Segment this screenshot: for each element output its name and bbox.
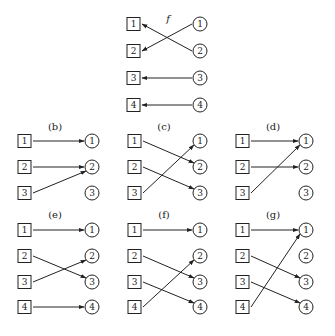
domain-node-label: 3 [240, 277, 246, 287]
mapping-arrow [33, 260, 86, 282]
domain-node-label: 4 [22, 302, 28, 312]
codomain-node-label: 4 [303, 302, 309, 312]
panel-f2: (f)12341234 [128, 209, 207, 314]
codomain-node-label: 2 [89, 251, 95, 261]
codomain-node-label: 2 [303, 162, 309, 172]
mapping-arrow [251, 234, 300, 307]
panel-d: (d)123123 [236, 121, 313, 200]
domain-node-label: 2 [22, 162, 28, 172]
codomain-node-label: 2 [89, 162, 95, 172]
domain-node-label: 1 [132, 225, 138, 235]
codomain-node-label: 3 [89, 277, 95, 287]
codomain-node-label: 3 [197, 73, 203, 83]
panel-label: (d) [266, 121, 280, 132]
codomain-node-label: 1 [197, 136, 203, 146]
mapping-arrow [33, 171, 86, 193]
domain-node-label: 1 [132, 136, 138, 146]
codomain-node-label: 1 [197, 225, 203, 235]
domain-node-label: 3 [22, 277, 28, 287]
panel-label: (e) [48, 209, 62, 220]
domain-node-label: 4 [132, 302, 138, 312]
panel-e: (e)12341234 [18, 209, 99, 314]
mapping-arrow [251, 282, 300, 303]
codomain-node-label: 4 [197, 302, 203, 312]
codomain-node-label: 3 [303, 188, 309, 198]
domain-node-label: 2 [131, 46, 137, 56]
panel-label: (c) [157, 121, 171, 132]
panel-label: (f) [158, 209, 170, 220]
domain-node-label: 1 [240, 136, 246, 146]
mapping-arrow [251, 145, 300, 193]
codomain-node-label: 4 [89, 302, 95, 312]
panel-label: (b) [48, 121, 62, 132]
panel-c: (c)123123 [128, 121, 207, 200]
domain-node-label: 1 [22, 136, 28, 146]
domain-node-label: 2 [132, 162, 138, 172]
codomain-node-label: 2 [197, 251, 203, 261]
codomain-node-label: 2 [303, 251, 309, 261]
domain-node-label: 1 [22, 225, 28, 235]
codomain-node-label: 3 [89, 188, 95, 198]
domain-node-label: 1 [240, 225, 246, 235]
domain-node-label: 3 [132, 188, 138, 198]
mapping-arrow [33, 256, 86, 278]
domain-node-label: 4 [131, 100, 137, 110]
codomain-node-label: 1 [89, 225, 95, 235]
domain-node-label: 3 [22, 188, 28, 198]
mapping-diagram-figure: f12341234(b)123123(c)123123(d)123123(e)1… [0, 0, 335, 336]
panel-label: f [165, 13, 172, 24]
codomain-node-label: 2 [197, 46, 203, 56]
domain-node-label: 3 [240, 188, 246, 198]
domain-node-label: 2 [240, 251, 246, 261]
panel-f: f12341234 [127, 13, 207, 112]
domain-node-label: 4 [240, 302, 246, 312]
domain-node-label: 2 [240, 162, 246, 172]
domain-node-label: 3 [132, 277, 138, 287]
codomain-node-label: 1 [89, 136, 95, 146]
codomain-node-label: 4 [197, 100, 203, 110]
codomain-node-label: 2 [197, 162, 203, 172]
panel-g: (g)12341234 [236, 209, 313, 314]
codomain-node-label: 1 [303, 225, 309, 235]
domain-node-label: 2 [22, 251, 28, 261]
domain-node-label: 3 [131, 73, 137, 83]
codomain-node-label: 1 [197, 19, 203, 29]
domain-node-label: 1 [131, 19, 137, 29]
domain-node-label: 2 [132, 251, 138, 261]
codomain-node-label: 3 [197, 277, 203, 287]
panel-label: (g) [266, 209, 280, 220]
codomain-node-label: 3 [303, 277, 309, 287]
mapping-arrow [251, 256, 300, 278]
panel-b: (b)123123 [18, 121, 99, 200]
codomain-node-label: 1 [303, 136, 309, 146]
codomain-node-label: 3 [197, 188, 203, 198]
